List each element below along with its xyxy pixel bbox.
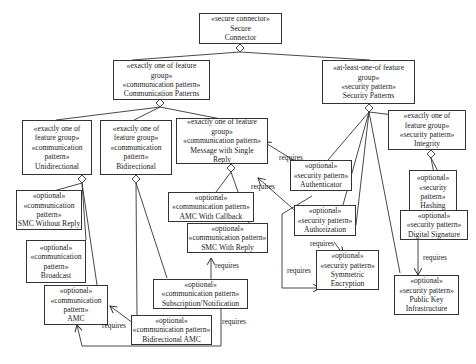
stereotype: «communication: [30, 252, 81, 261]
requires-label: requires: [310, 240, 334, 248]
node-secure-connector[interactable]: «secure connector» Secure Connector: [199, 13, 282, 44]
stereotype: «security pattern»: [341, 82, 396, 91]
stereotype: feature group»: [114, 133, 159, 142]
aggregation-diamond-icon: [156, 99, 164, 107]
stereotype: «communication pattern»: [162, 289, 240, 298]
node-name: Encryption: [331, 279, 365, 288]
stereotype: «exactly one of: [404, 111, 451, 120]
stereotype: «exactly one of feature: [187, 117, 257, 126]
edge-bi-to-sub: [136, 183, 167, 278]
node-symmetric-encryption[interactable]: «optional» «security pattern» Symmetric …: [316, 250, 379, 290]
stereotype: group»: [151, 71, 173, 80]
node-smc-without-reply[interactable]: «optional» «communication pattern» SMC W…: [16, 190, 82, 230]
node-name: Message with Single: [190, 146, 253, 155]
stereotype: pattern»: [421, 192, 446, 201]
stereotype: «exactly one of: [113, 124, 160, 133]
aggregation-diamond-icon: [365, 104, 373, 112]
stereotype: «optional»: [40, 243, 72, 252]
node-bidirectional[interactable]: «exactly one of feature group» «communic…: [100, 120, 172, 175]
node-name: Connector: [225, 33, 257, 42]
node-broadcast[interactable]: «optional» «communication pattern» Broad…: [26, 240, 86, 283]
edge-sec-to-auth: [328, 112, 369, 160]
stereotype: «security pattern»: [400, 130, 455, 139]
stereotype: «communication: [23, 201, 74, 210]
stereotype: group»: [358, 73, 380, 82]
node-authorization[interactable]: «optional» «security pattern» Authorizat…: [294, 205, 356, 236]
edge-secure-to-comm: [132, 52, 240, 60]
stereotype: «communication pattern»: [133, 325, 211, 334]
stereotype: «optional»: [418, 211, 450, 220]
stereotype: «security pattern»: [294, 171, 349, 180]
aggregation-diamond-icon: [227, 164, 235, 172]
node-name: Digital Signature: [408, 230, 460, 239]
node-name: Communication Patterns: [124, 89, 199, 98]
stereotype: «optional»: [195, 193, 227, 202]
node-bidirectional-amc[interactable]: «optional» «communication pattern» Bidir…: [131, 315, 212, 345]
node-authenticator[interactable]: «optional» «security pattern» Authentica…: [290, 160, 352, 191]
stereotype: «exactly one of: [34, 124, 81, 133]
stereotype: «optional»: [410, 276, 442, 285]
aggregation-diamond-icon: [427, 150, 435, 158]
node-unidirectional[interactable]: «exactly one of feature group» «communic…: [22, 120, 92, 175]
stereotype: «optional»: [60, 286, 92, 295]
node-name: Bidirectional: [116, 162, 156, 171]
stereotype: «optional»: [417, 173, 449, 182]
node-smc-with-reply[interactable]: «optional» «communication pattern» SMC W…: [187, 223, 268, 253]
stereotype: pattern»: [124, 152, 149, 161]
stereotype: «communication pattern»: [189, 233, 267, 242]
edge-uni-to-broadcast: [82, 183, 86, 240]
node-name: Broadcast: [41, 271, 71, 280]
stereotype: «communication: [50, 296, 101, 305]
node-public-key-infrastructure[interactable]: «optional» «security pattern» Public Key…: [394, 275, 459, 315]
node-name: Symmetric: [331, 270, 364, 279]
requires-label: requires: [423, 254, 447, 262]
aggregation-diamond-icon: [236, 44, 244, 52]
node-name: Integrity: [414, 139, 440, 148]
requires-label: requires: [279, 154, 303, 162]
edge-msr-to-amccb: [216, 172, 231, 192]
edge-sec-to-symenc: [356, 112, 369, 225]
node-name: Public Key: [410, 295, 444, 304]
edge-comm-to-uni: [56, 107, 160, 120]
node-security-patterns[interactable]: «at-least-one-of feature group» «securit…: [322, 60, 415, 104]
node-name: Secure: [230, 24, 251, 33]
requires-label: requires: [222, 318, 246, 326]
node-name: Security Patterns: [343, 91, 395, 100]
stereotype: «communication pattern»: [123, 80, 201, 89]
node-digital-signature[interactable]: «optional» «security pattern» Digital Si…: [400, 210, 468, 240]
requires-label: requires: [251, 183, 275, 191]
node-name: Infrastructure: [406, 304, 447, 313]
node-communication-patterns[interactable]: «exactly one of feature group» «communic…: [113, 60, 210, 100]
stereotype: «security: [419, 183, 447, 192]
node-message-with-single-reply[interactable]: «exactly one of feature group» «communic…: [176, 118, 268, 164]
stereotype: feature group»: [35, 133, 80, 142]
stereotype: «exactly one of feature: [127, 61, 197, 70]
requires-label: requires: [215, 262, 239, 270]
stereotype: «optional»: [309, 206, 341, 215]
node-amc-with-callback[interactable]: «optional» «communication pattern» AMC W…: [168, 192, 254, 222]
requires-label: requires: [102, 322, 126, 330]
stereotype: «at-least-one-of feature: [333, 63, 404, 72]
stereotype: «security pattern»: [298, 216, 353, 225]
node-name: Unidirectional: [35, 162, 79, 171]
node-name: Bidirectional AMC: [142, 335, 200, 344]
node-amc[interactable]: «optional» «communication pattern» AMC: [44, 285, 108, 325]
node-integrity[interactable]: «exactly one of feature group» «security…: [388, 110, 466, 150]
node-hashing[interactable]: «optional» «security pattern» Hashing: [409, 170, 457, 214]
stereotype: pattern»: [64, 305, 89, 314]
stereotype: «optional»: [155, 316, 187, 325]
stereotype: «communication pattern»: [172, 202, 250, 211]
edge-bi-to-biamc: [136, 183, 137, 315]
requires-label: requires: [287, 267, 311, 275]
edge-secure-to-security: [240, 52, 370, 60]
node-name: Reply: [213, 155, 231, 164]
node-subscription-notification[interactable]: «optional» «communication pattern» Subsc…: [153, 279, 248, 309]
node-name: Authorization: [304, 225, 346, 234]
stereotype: «optional»: [305, 161, 337, 170]
node-name: AMC With Callback: [180, 212, 243, 221]
stereotype: «communication pattern»: [183, 136, 261, 145]
aggregation-diamond-icon: [78, 175, 86, 183]
stereotype: «security pattern»: [399, 286, 454, 295]
stereotype: «security pattern»: [320, 261, 375, 270]
stereotype: group»: [211, 127, 233, 136]
